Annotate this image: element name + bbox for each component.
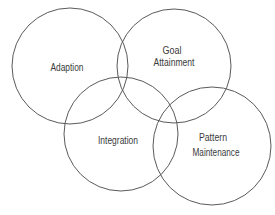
circle-adaption-group: Adaption [12,8,128,124]
label-adaption: Adaption [51,61,84,73]
label-pattern-maintenance-line1: Pattern [199,131,227,143]
circle-pattern-maintenance-group: Pattern Maintenance [153,87,271,205]
circle-goal-attainment-group: Goal Attainment [117,9,231,123]
label-goal-attainment-line2: Attainment [154,56,195,68]
label-pattern-maintenance-line2: Maintenance [193,146,240,158]
agil-venn-diagram: Adaption Goal Attainment Integration Pat… [0,0,275,215]
label-integration: Integration [98,134,138,146]
label-goal-attainment-line1: Goal [163,44,182,56]
